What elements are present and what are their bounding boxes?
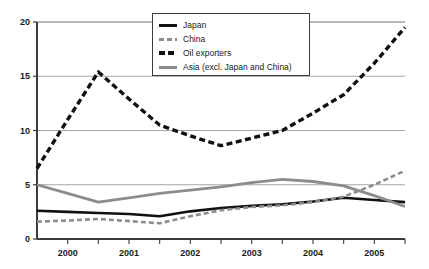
- legend-label-oil-exporters: Oil exporters: [183, 49, 231, 58]
- legend-label-asia: Asia (excl. Japan and China): [183, 63, 292, 72]
- y-axis-ticks: 05101520: [20, 17, 37, 244]
- line-chart: 05101520 200020012002200320042005 Japan …: [0, 0, 429, 269]
- legend-swatch-japan: [159, 24, 177, 27]
- svg-text:2001: 2001: [119, 248, 139, 258]
- svg-text:15: 15: [20, 71, 30, 81]
- svg-text:5: 5: [25, 180, 30, 190]
- svg-text:2005: 2005: [364, 248, 384, 258]
- legend-swatch-china: [159, 38, 177, 41]
- legend-item-japan: Japan: [159, 18, 303, 32]
- x-axis-ticks: 200020012002200320042005: [58, 239, 405, 258]
- legend-item-asia: Asia (excl. Japan and China): [159, 60, 303, 74]
- svg-text:2004: 2004: [303, 248, 323, 258]
- svg-text:2003: 2003: [242, 248, 262, 258]
- legend-label-china: China: [183, 35, 205, 44]
- legend-item-oil-exporters: Oil exporters: [159, 46, 303, 60]
- svg-text:2002: 2002: [180, 248, 200, 258]
- legend-swatch-asia: [159, 66, 177, 69]
- svg-text:0: 0: [25, 234, 30, 244]
- svg-text:2000: 2000: [58, 248, 78, 258]
- svg-text:10: 10: [20, 126, 30, 136]
- svg-text:20: 20: [20, 17, 30, 27]
- chart-legend: Japan China Oil exporters Asia (excl. Ja…: [152, 13, 310, 76]
- legend-item-china: China: [159, 32, 303, 46]
- legend-label-japan: Japan: [183, 21, 206, 30]
- legend-swatch-oil-exporters: [159, 51, 177, 55]
